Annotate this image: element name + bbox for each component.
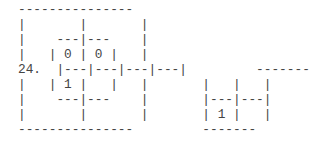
ascii-line-3-zero-cells: | | 0 | 0 | | xyxy=(18,47,310,62)
ascii-line-1: | | | xyxy=(18,17,310,32)
ascii-line-5-one-cell: | | 1 | | | | | | xyxy=(18,77,310,92)
ascii-line-8-bottom-border: --------------- ------- xyxy=(18,122,310,137)
ascii-line-2: | ---|--- | xyxy=(18,32,310,47)
ascii-line-7-right-one-cell: | | | | 1 | | xyxy=(18,107,310,122)
ascii-line-0-top-border: --------------- xyxy=(18,2,310,17)
ascii-line-4-item-number: 24. |---|---|---|---| ------- xyxy=(18,62,310,77)
ascii-grid-diagram: ---------------| | || ---|--- || | 0 | 0… xyxy=(18,2,310,137)
ascii-line-6: | ---|--- | |---|---| xyxy=(18,92,310,107)
